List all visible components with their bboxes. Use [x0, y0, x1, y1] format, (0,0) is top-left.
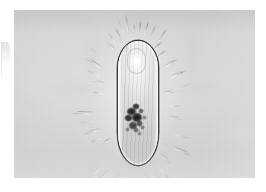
plate-vignette	[14, 10, 255, 178]
photo-page: Grayscale photomicrograph of an elongate…	[0, 0, 266, 192]
micrograph-plate	[14, 10, 255, 178]
margin-smudge-mark	[1, 42, 11, 76]
